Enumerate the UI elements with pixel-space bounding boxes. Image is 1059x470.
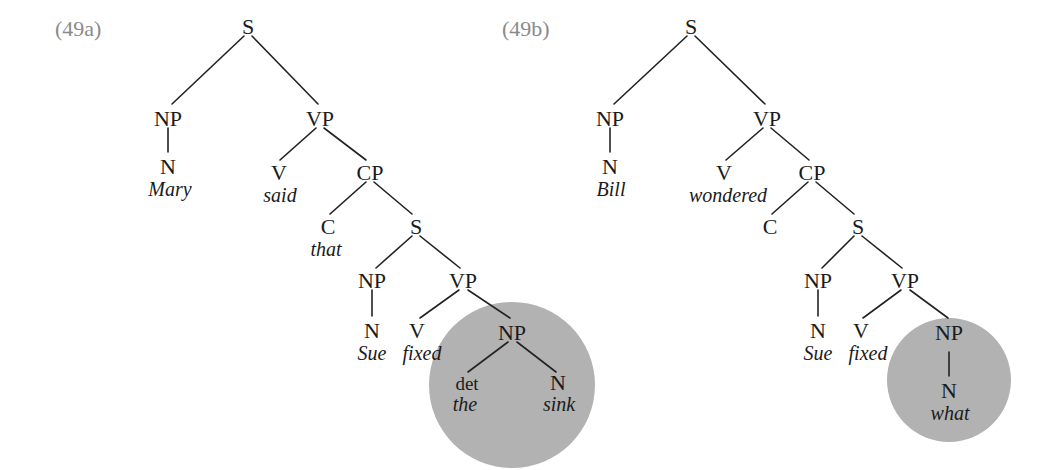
branch-49b-s-np (614, 36, 687, 104)
branch-49a-semb-vp (420, 236, 460, 268)
node-49a-np-subject: NP (154, 106, 182, 131)
word-49a-the: the (453, 393, 478, 415)
node-49a-det: det (455, 373, 479, 394)
branch-49a-cp-c (330, 182, 366, 214)
node-49a-n-object: N (550, 370, 566, 395)
branch-49b-cp-s (816, 182, 854, 214)
word-49b-sue: Sue (804, 342, 833, 364)
branch-49a-cp-s (374, 182, 412, 214)
node-49a-np-object: NP (498, 320, 526, 345)
node-49a-np-embedded-subject: NP (358, 268, 386, 293)
syntax-tree-diagram: (49a) S NP VP N Mary V said CP C that S … (0, 0, 1059, 470)
branch-49b-vp-v (726, 128, 763, 160)
node-49a-c: C (321, 214, 336, 239)
word-49b-fixed: fixed (849, 342, 889, 365)
branch-49b-s-vp (695, 36, 765, 104)
node-49b-cp: CP (799, 160, 826, 185)
branch-49b-vp-cp (771, 128, 809, 160)
branch-49b-semb-np (822, 236, 854, 268)
word-49a-sink: sink (543, 393, 576, 415)
branch-49b-vpemb-v (863, 290, 901, 318)
node-49b-n-object: N (941, 378, 957, 403)
node-49b-vp-matrix: VP (753, 106, 781, 131)
branch-49b-cp-c (772, 182, 808, 214)
word-49a-said: said (263, 184, 297, 206)
branch-49b-vpemb-npobj (910, 290, 948, 318)
figure-canvas: (49a) S NP VP N Mary V said CP C that S … (0, 0, 1059, 470)
node-49b-c: C (763, 214, 778, 239)
node-49b-np-object: NP (935, 320, 963, 345)
branch-49a-s-vp (252, 36, 318, 104)
node-49a-v-matrix: V (271, 160, 287, 185)
word-49b-what: what (931, 402, 970, 424)
node-49b-s-embedded: S (852, 214, 864, 239)
node-49b-v-embedded: V (853, 318, 869, 343)
word-49a-mary: Mary (147, 178, 191, 201)
node-49a-s-root: S (242, 14, 254, 39)
node-49a-vp-embedded: VP (449, 268, 477, 293)
word-49a-sue: Sue (358, 342, 387, 364)
example-tag-49a: (49a) (55, 16, 101, 41)
node-49b-n-embedded-subject: N (810, 318, 826, 343)
node-49a-cp: CP (357, 160, 384, 185)
node-49b-n-subject: N (602, 154, 618, 179)
example-tag-49b: (49b) (502, 16, 550, 41)
word-49a-that: that (310, 238, 342, 260)
node-49a-vp-matrix: VP (306, 106, 334, 131)
node-49a-s-embedded: S (410, 214, 422, 239)
branch-49a-vp-v (280, 128, 316, 160)
node-49b-vp-embedded: VP (891, 268, 919, 293)
branch-49a-vpemb-v (420, 290, 459, 318)
branch-49b-semb-vp (862, 236, 902, 268)
node-49a-n-embedded-subject: N (364, 318, 380, 343)
word-49b-bill: Bill (597, 178, 626, 200)
node-49b-np-embedded-subject: NP (804, 268, 832, 293)
node-49a-n-subject: N (160, 154, 176, 179)
branch-49a-semb-np (376, 236, 412, 268)
branch-49a-vp-cp (324, 128, 366, 160)
node-49a-v-embedded: V (409, 318, 425, 343)
branch-49a-s-np (172, 36, 244, 104)
node-49b-s-root: S (685, 14, 697, 39)
node-49b-np-subject: NP (596, 106, 624, 131)
word-49b-wondered: wondered (689, 184, 768, 206)
node-49b-v-matrix: V (716, 160, 732, 185)
word-49a-fixed: fixed (403, 342, 443, 365)
